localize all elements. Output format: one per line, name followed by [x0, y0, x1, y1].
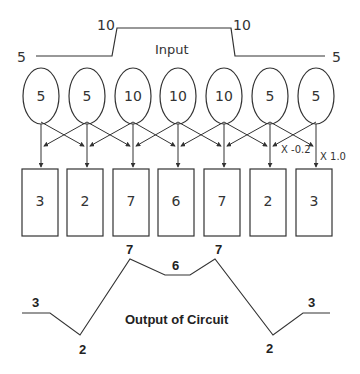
curve-label: 2: [266, 341, 273, 356]
neuron-value: 5: [37, 88, 46, 104]
neuron: 5: [23, 68, 59, 124]
output-box: 6: [158, 169, 194, 236]
neuron: 5: [298, 68, 334, 124]
lateral-inhibition-diagram: 5 10 10 5 Input 5 5 10 10 10 5 5: [0, 0, 360, 374]
output-box: 7: [204, 169, 240, 236]
output-value: 3: [36, 193, 45, 209]
neuron: 10: [206, 68, 242, 124]
neuron-value: 10: [169, 88, 187, 104]
lateral-weight-label: X -0.2: [281, 144, 311, 155]
output-value: 6: [172, 193, 181, 209]
curve-label: 7: [126, 242, 133, 257]
input-low-left-label: 5: [17, 49, 26, 65]
input-low-right-label: 5: [332, 49, 341, 65]
neuron: 5: [252, 68, 288, 124]
output-box: 3: [22, 169, 58, 236]
output-box: 2: [250, 169, 286, 236]
output-box: 7: [113, 169, 149, 236]
curve-label: 3: [308, 295, 315, 310]
curve-label: 7: [215, 242, 222, 257]
input-signal: 5 10 10 5 Input: [17, 17, 341, 65]
input-title: Input: [155, 42, 189, 57]
neuron: 10: [115, 68, 151, 124]
output-value: 7: [218, 193, 227, 209]
output-box: 3: [296, 169, 332, 236]
direct-weight-label: X 1.0: [320, 151, 346, 162]
input-high-left-label: 10: [97, 17, 115, 33]
input-high-right-label: 10: [233, 17, 251, 33]
output-box: 2: [67, 169, 103, 236]
output-value: 2: [264, 193, 273, 209]
output-layer: 3 2 7 6 7 2 3: [22, 169, 332, 236]
output-value: 7: [127, 193, 136, 209]
output-value: 3: [310, 193, 319, 209]
curve-label: 2: [79, 342, 86, 357]
neuron: 10: [160, 68, 196, 124]
neuron-value: 5: [83, 88, 92, 104]
neuron: 5: [69, 68, 105, 124]
neuron-value: 10: [124, 88, 142, 104]
neuron-value: 5: [266, 88, 275, 104]
neuron-value: 5: [312, 88, 321, 104]
neuron-value: 10: [215, 88, 233, 104]
output-curve-title: Output of Circuit: [125, 312, 229, 327]
neuron-layer: 5 5 10 10 10 5 5: [23, 68, 334, 124]
curve-label: 6: [172, 258, 179, 273]
output-value: 2: [81, 193, 90, 209]
output-curve: 3 2 7 6 7 2 3 Output of Circuit: [22, 242, 330, 357]
curve-label: 3: [32, 295, 39, 310]
